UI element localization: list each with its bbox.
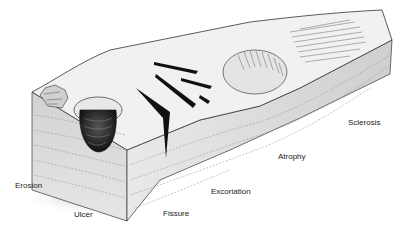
label-ulcer: Ulcer (74, 211, 93, 219)
skin-lesion-diagram: Erosion Ulcer Fissure Excoriation Atroph… (0, 0, 407, 236)
skin-block-illustration (0, 0, 407, 236)
label-fissure: Fissure (163, 210, 189, 218)
label-sclerosis: Sclerosis (348, 119, 380, 127)
atrophy-lesion (223, 50, 287, 94)
label-erosion: Erosion (15, 182, 42, 190)
label-atrophy: Atrophy (278, 153, 306, 161)
label-excoriation: Excoriation (211, 188, 251, 196)
